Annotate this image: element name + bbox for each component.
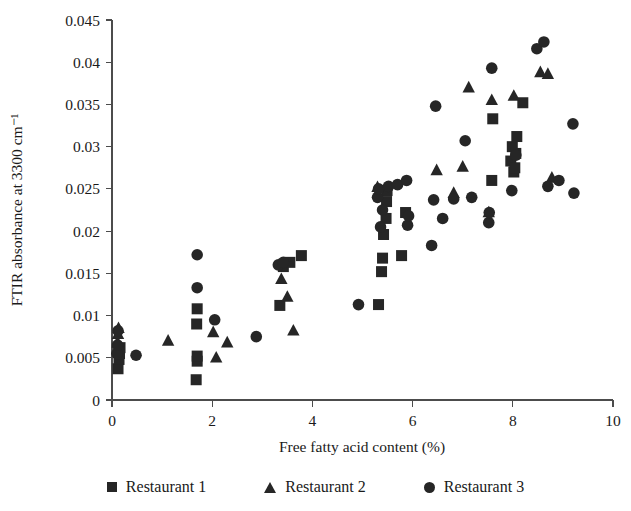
scatter-plot-canvas: 00.0050.010.0150.020.0250.030.0350.040.0… (0, 0, 631, 511)
data-point-triangle (281, 290, 293, 302)
data-point-circle (373, 183, 385, 195)
y-tick-label: 0.025 (65, 180, 100, 197)
legend-item-restaurant-1[interactable]: Restaurant 1 (107, 478, 206, 496)
y-tick-label: 0.02 (73, 223, 100, 240)
data-point-circle (428, 194, 440, 206)
y-tick-label: 0.015 (65, 265, 100, 282)
data-point-triangle (287, 324, 299, 336)
x-tick-label: 6 (409, 412, 417, 429)
chart-legend: Restaurant 1 Restaurant 2 Restaurant 3 (0, 478, 631, 496)
x-axis-ticks: 0246810 (108, 400, 621, 429)
data-point-square (191, 374, 202, 385)
data-point-circle (112, 325, 124, 337)
x-tick-label: 8 (509, 412, 517, 429)
data-point-circle (568, 187, 580, 199)
data-point-triangle (210, 351, 222, 363)
data-point-triangle (221, 336, 233, 348)
data-point-circle (401, 175, 413, 187)
legend-label-restaurant-3: Restaurant 3 (444, 478, 524, 496)
data-point-square (511, 131, 522, 142)
x-tick-label: 0 (108, 412, 116, 429)
y-axis-ticks: 00.0050.010.0150.020.0250.030.0350.040.0… (65, 12, 112, 409)
data-point-square (487, 113, 498, 124)
y-tick-label: 0.01 (73, 307, 100, 324)
triangle-marker-icon (264, 482, 276, 493)
data-point-square (377, 253, 388, 264)
legend-label-restaurant-1: Restaurant 1 (126, 478, 206, 496)
legend-item-restaurant-3[interactable]: Restaurant 3 (424, 478, 524, 496)
data-point-square (192, 351, 203, 362)
data-point-circle (377, 204, 389, 216)
data-point-circle (466, 192, 478, 204)
data-point-triangle (463, 81, 475, 93)
x-tick-label: 2 (208, 412, 216, 429)
series-3-points (111, 36, 580, 361)
data-point-triangle (275, 272, 287, 284)
data-point-circle (448, 193, 460, 205)
data-point-circle (538, 36, 550, 48)
data-points-layer (111, 36, 580, 385)
y-tick-label: 0.04 (73, 54, 100, 71)
data-point-square (396, 250, 407, 261)
x-tick-label: 4 (309, 412, 317, 429)
y-tick-label: 0.005 (65, 349, 100, 366)
y-tick-label: 0.045 (65, 12, 100, 29)
data-point-circle (130, 349, 142, 361)
data-point-triangle (162, 334, 174, 346)
data-point-triangle (457, 160, 469, 172)
square-marker-icon (107, 482, 117, 492)
y-tick-label: 0 (92, 392, 100, 409)
data-point-circle (567, 118, 579, 130)
data-point-square (509, 162, 520, 173)
data-point-square (296, 250, 307, 261)
y-tick-label: 0.035 (65, 96, 100, 113)
data-point-circle (486, 62, 498, 74)
legend-item-restaurant-2[interactable]: Restaurant 2 (264, 478, 365, 496)
data-point-circle (426, 240, 438, 252)
data-point-circle (506, 185, 518, 197)
ftir-scatter-figure: 00.0050.010.0150.020.0250.030.0350.040.0… (0, 0, 631, 511)
data-point-square (191, 319, 202, 330)
data-point-triangle (430, 163, 442, 175)
data-point-triangle (486, 93, 498, 105)
data-point-circle (209, 314, 221, 326)
data-point-circle (353, 299, 365, 311)
circle-marker-icon (424, 482, 435, 493)
data-point-circle (403, 210, 415, 222)
data-point-square (373, 299, 384, 310)
data-point-circle (459, 135, 471, 147)
data-point-circle (553, 175, 565, 187)
data-point-triangle (207, 326, 219, 338)
data-point-circle (191, 249, 203, 261)
x-axis-title: Free fatty acid content (%) (279, 438, 445, 456)
data-point-circle (510, 149, 522, 161)
y-axis-title: FTIR absorbance at 3300 cm⁻¹ (8, 113, 25, 306)
data-point-circle (483, 207, 495, 219)
data-point-triangle (508, 89, 520, 101)
data-point-circle (112, 339, 124, 351)
data-point-circle (430, 100, 442, 112)
data-point-circle (542, 181, 554, 193)
data-point-circle (250, 331, 262, 343)
data-point-circle (437, 213, 449, 225)
data-point-circle (278, 257, 290, 269)
data-point-circle (375, 221, 387, 233)
y-tick-label: 0.03 (73, 138, 100, 155)
data-point-circle (483, 217, 495, 229)
data-point-square (192, 303, 203, 314)
data-point-circle (191, 282, 203, 294)
x-tick-label: 10 (605, 412, 621, 429)
legend-label-restaurant-2: Restaurant 2 (285, 478, 365, 496)
data-point-square (486, 175, 497, 186)
data-point-square (376, 266, 387, 277)
